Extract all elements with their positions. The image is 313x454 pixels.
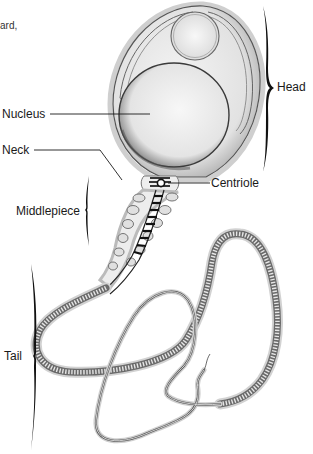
label-neck: Neck [2, 143, 29, 157]
middlepiece-structure [100, 190, 178, 294]
label-centriole: Centriole [211, 176, 259, 190]
tail-structure [36, 234, 277, 441]
label-middlepiece: Middlepiece [16, 204, 80, 218]
middlepiece-brace [85, 176, 89, 246]
label-tail: Tail [4, 349, 22, 363]
label-head: Head [277, 80, 306, 94]
sperm-cell-diagram: ard, Nucleus Neck Middlepiece Tail Head … [0, 0, 313, 454]
head-structure [110, 4, 263, 180]
neck-leader [34, 150, 122, 180]
label-nucleus: Nucleus [2, 107, 45, 121]
caption-fragment: ard, [0, 20, 17, 31]
centriole-shape [157, 179, 164, 186]
diagram-canvas [0, 0, 313, 454]
